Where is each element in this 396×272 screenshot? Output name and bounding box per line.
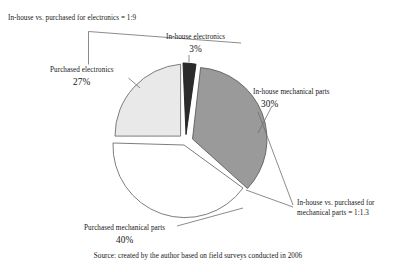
pie-label-purchased-electronics: Purchased electronics 27%: [50, 66, 114, 88]
pie-value-inhouse-mechanical-parts: 30%: [253, 99, 330, 110]
pie-label-inhouse-electronics: In-house electronics 3%: [166, 33, 225, 55]
pie-label-purchased-mechanical-parts-text: Purchased mechanical parts: [84, 224, 165, 232]
pie-value-purchased-mechanical-parts: 40%: [84, 235, 165, 246]
pie-label-purchased-mechanical-parts: Purchased mechanical parts 40%: [84, 224, 165, 246]
pie-value-purchased-electronics: 27%: [50, 77, 114, 88]
leader-line-purchased-mechanical-ratio: [246, 190, 293, 207]
pie-chart-figure: In-house vs. purchased for electronics =…: [0, 0, 396, 272]
annotation-mechanical-ratio: In-house vs. purchased for mechanical pa…: [297, 199, 393, 218]
annotation-electronics-ratio: In-house vs. purchased for electronics =…: [8, 14, 136, 24]
pie-label-inhouse-electronics-text: In-house electronics: [166, 33, 225, 41]
pie-label-inhouse-mechanical-parts-text: In-house mechanical parts: [253, 88, 330, 96]
pie-label-inhouse-mechanical-parts: In-house mechanical parts 30%: [253, 88, 330, 110]
source-note: Source: created by the author based on f…: [0, 252, 396, 262]
pie-value-inhouse-electronics: 3%: [166, 44, 225, 55]
pie-slice-purchased-electronics[interactable]: [115, 64, 181, 136]
pie-label-purchased-electronics-text: Purchased electronics: [50, 66, 114, 74]
